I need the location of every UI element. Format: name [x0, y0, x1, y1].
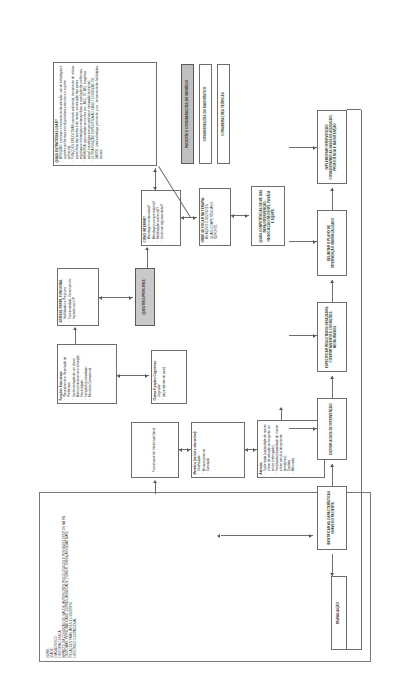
plan-implement-label: IMPLEMENTAR INTERVENÇÃO CONSIDERANDO AS … [320, 114, 344, 181]
arrow-drop-3 [313, 334, 316, 338]
arrow-synthesis-key-down [129, 296, 132, 300]
strategies-item-3: OUTRA FUNÇÃO ESPECÍFICA AO CASO / CONDIÇ… [92, 66, 104, 160]
assessment-other-cognitive-item-1: (dependendo do caso) [163, 354, 167, 398]
arrow-synthesis-key-up [99, 296, 102, 300]
connector-feedback-loop [361, 110, 362, 650]
header-diagnosis-considerations-label: CONSIDERAÇÕES DO DIAGNÓSTICO [202, 68, 209, 161]
connector-identify-define [332, 464, 333, 486]
arrow-reassess-identify [330, 573, 334, 576]
arrow-drop-5 [313, 146, 316, 150]
assessment-executive: Funções Executivas Planejamento e Resolu… [57, 344, 117, 404]
plan-specify-results: ESPECIFICAR RESULTADOS DESEJADOS: COMPOR… [317, 302, 347, 372]
connector-feedback-up [347, 649, 361, 650]
arrow-intervene-strategies-left [153, 187, 157, 190]
competences-title: QUAIS COMPETÊNCIAS DE ME DAS PARA INTERV… [254, 190, 282, 243]
arrow-identify-define [330, 464, 334, 467]
assessment-other-cognitive: Outras Funções Cognitivas Cognição (depe… [151, 350, 187, 404]
arrow-memory-attention-down [253, 448, 256, 452]
connector-feedback-right [347, 109, 361, 110]
arrow-focus-competences-down [245, 214, 248, 218]
arrow-intake-down [309, 534, 312, 538]
key-questions-label: QUESTÕES PRINCIPAIS [138, 272, 152, 323]
arrow-memory-attention-up [245, 448, 248, 452]
arrow-executive-other-up [117, 374, 120, 378]
where-to-focus-item-1: QUAIS COMPETÊNCIAS E SUPORTE. [211, 192, 219, 240]
competences-negotiation: QUAIS COMPETÊNCIAS DE ME DAS PARA INTERV… [251, 186, 285, 246]
plan-identify-key: IDENTIFICAR AS CARACTERÍSTICAS CHAVE DO … [317, 486, 347, 550]
arrow-executive-synthesis [73, 327, 77, 330]
header-patient-considerations: PACIENTE E CONSIDERAÇÕES DO INDIVÍDUO [181, 64, 194, 164]
connector-define-specify [332, 376, 333, 398]
mind-map-viewport: NOME: IDADE: DIAGNÓSTICO: HISTÓRIA CLÍNI… [0, 0, 414, 691]
reassessment-box: REAVALIAÇÃO [331, 576, 347, 650]
arrow-intellectual-memory-down [187, 448, 190, 452]
synthesis-item-2: Impacto nas OP [73, 272, 77, 320]
assessment-intellectual: Funcionamento Intelectual Geral [131, 422, 179, 478]
where-to-focus: ONDE SE FOCAR NA TERAPIA: AS AÇÕES E DEC… [199, 188, 231, 246]
arrow-intervene-focus-down [193, 216, 196, 220]
how-to-intervene-item-3: Combinar algumas delas? [161, 194, 165, 240]
arrow-intellectual-memory-up [179, 448, 182, 452]
connector-specify-delimit [332, 280, 333, 302]
plan-delimit-plan: DELIMITAR O PLANO DE INTERVENÇÃO INDIVID… [317, 210, 347, 276]
arrow-intervene-strategies-right [153, 169, 157, 172]
header-diagnosis-considerations: CONSIDERAÇÕES DO DIAGNÓSTICO [199, 64, 212, 164]
arrow-intake-intellectual [153, 480, 157, 483]
arrow-delimit-implement [330, 188, 334, 191]
connector-intake-down [221, 535, 313, 536]
assessment-attention-item-3: Alternada. [292, 424, 296, 472]
key-questions-block: QUESTÕES PRINCIPAIS [135, 268, 155, 326]
assessment-attention-item-0: Sustentada (capacidade de manter o foco … [264, 424, 276, 472]
arrow-specify-delimit [330, 280, 334, 283]
reassessment-label: REAVALIAÇÃO [334, 580, 344, 647]
connector-delimit-implement [332, 188, 333, 210]
assessment-attention-item-1: Focalizada (capacidade de manter o foco … [276, 424, 288, 472]
mind-map-canvas: NOME: IDADE: DIAGNÓSTICO: HISTÓRIA CLÍNI… [31, 26, 383, 666]
arrow-intake-up [217, 534, 220, 538]
assessment-intellectual-title: Funcionamento Intelectual Geral [134, 426, 176, 475]
plan-delimit-plan-label: DELIMITAR O PLANO DE INTERVENÇÃO INDIVID… [320, 214, 344, 273]
arrow-attention-executive [279, 407, 283, 410]
header-patient-considerations-label: PACIENTE E CONSIDERAÇÕES DO INDIVÍDUO [184, 68, 191, 161]
plan-define-targets-label: DEFINIR ALVOS DE INTERVENÇÃO [320, 402, 344, 457]
header-theoretical-considerations: CONSIDERAÇÕES TEÓRICAS [217, 64, 230, 164]
arrow-intervene-focus-up [181, 216, 184, 220]
arrow-executive-other-down [145, 374, 148, 378]
plan-specify-results-label: ESPECIFICAR RESULTADOS DESEJADOS: COMPOR… [320, 306, 344, 369]
assessment-memory: Memória (verbal e não verbal) Codificaçã… [191, 422, 245, 478]
header-theoretical-considerations-label: CONSIDERAÇÕES TEÓRICAS [220, 68, 227, 161]
connector-key-intervene [147, 248, 148, 268]
arrow-define-specify [330, 376, 334, 379]
connector-executive-synthesis [75, 328, 76, 344]
plan-identify-key-label: IDENTIFICAR AS CARACTERÍSTICAS CHAVE DO … [320, 490, 344, 547]
connector-intake-intellectual [155, 482, 156, 494]
how-to-intervene: COMO INTERVIR? Abordagem restaurativa? A… [141, 190, 181, 246]
synthesis-profile: SÍNTESE PERFIL FUNCIONAL Habilidades e P… [57, 268, 99, 326]
arrow-drop-4 [313, 240, 316, 244]
arrow-focus-competences-up [231, 214, 234, 218]
plan-implement: IMPLEMENTAR INTERVENÇÃO CONSIDERANDO AS … [317, 110, 347, 184]
connector-synthesis-key [99, 297, 133, 298]
plan-define-targets: DEFINIR ALVOS DE INTERVENÇÃO [317, 398, 347, 460]
arrow-drop-2 [313, 427, 316, 431]
strategies-box: QUAIS ESTRATÉGIAS USAR? ATENÇÃO: promove… [53, 62, 157, 166]
arrow-key-intervene [145, 247, 149, 250]
figure-page: Figura 3 – O mapa mental para a estrutur… [0, 0, 414, 691]
assessment-memory-item-2: Evocação. [207, 426, 211, 472]
assessment-executive-item-5: Memória Operacional. [89, 348, 93, 398]
